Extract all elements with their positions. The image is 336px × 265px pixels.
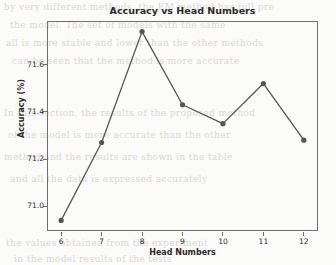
- data-point-marker: [301, 138, 306, 143]
- data-point-marker: [59, 218, 64, 223]
- figure-page: by very different methods, the EM method…: [0, 0, 336, 265]
- data-point-marker: [180, 102, 185, 107]
- line-chart: Accuracy vs Head Numbers Accuracy (%) He…: [0, 0, 336, 265]
- data-point-marker: [99, 140, 104, 145]
- data-point-marker: [261, 81, 266, 86]
- series-line: [61, 32, 304, 221]
- data-point-marker: [220, 121, 225, 126]
- data-point-marker: [139, 29, 144, 34]
- data-series-layer: [0, 0, 336, 265]
